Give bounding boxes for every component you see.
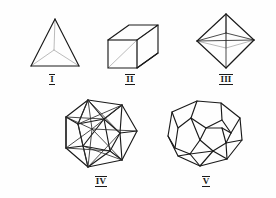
dodecahedron-edge-left-join: [168, 136, 175, 148]
figure-cube: [108, 25, 158, 68]
figure-canvas: I II III IV V: [0, 0, 276, 198]
figure-octahedron: [197, 14, 254, 68]
tetrahedron-hidden-edge-apex-rear: [54, 19, 55, 50]
dodecahedron-edge-lower-right: [226, 143, 227, 159]
icosahedron-edge-m2: [83, 119, 104, 146]
platonic-solids-illustration: [0, 0, 276, 198]
figure-tetrahedron: [31, 19, 79, 66]
figure-label-icosahedron: IV: [91, 176, 111, 187]
figure-label-tetrahedron-text: I: [49, 74, 55, 85]
figure-label-octahedron-text: III: [219, 74, 232, 85]
figure-label-cube-text: II: [125, 74, 134, 85]
dodecahedron-edge-bottom-c: [213, 151, 227, 159]
figure-label-tetrahedron: I: [42, 74, 62, 85]
icosahedron-far-edge-10: [78, 124, 88, 167]
figure-icosahedron: [66, 100, 137, 167]
figure-label-dodecahedron: V: [196, 176, 216, 187]
icosahedron-far-edge-6: [66, 117, 104, 119]
cube-top-face: [108, 25, 158, 40]
dodecahedron-face-upper-right: [222, 118, 240, 133]
icosahedron-edge-l5: [120, 133, 122, 160]
dodecahedron-face-center-a: [200, 128, 222, 140]
dodecahedron-edge-right-b: [226, 133, 231, 143]
octahedron-edge-bottom-left: [197, 41, 226, 68]
figure-label-octahedron: III: [216, 74, 236, 85]
dodecahedron-edge-bottom-left-join: [178, 154, 190, 156]
figure-label-dodecahedron-text: V: [202, 176, 211, 187]
figure-label-icosahedron-text: IV: [95, 176, 107, 187]
icosahedron-edge-u6: [120, 105, 122, 133]
figure-label-cube: II: [120, 74, 140, 85]
dodecahedron-face-left: [175, 118, 200, 154]
dodecahedron-face-upper-left: [172, 112, 191, 128]
dodecahedron-face-top: [191, 101, 222, 128]
cube-hidden-diagonal: [108, 40, 137, 68]
dodecahedron-edge-bottom-b: [190, 151, 213, 154]
cube-right-face: [137, 25, 158, 68]
tetrahedron-edge-apex-right: [55, 19, 79, 66]
octahedron-equator-rear: [197, 40, 254, 41]
cube-edge-bottom-right: [137, 53, 158, 68]
tetrahedron-edge-apex-left: [31, 19, 55, 66]
figure-dodecahedron: [168, 101, 242, 166]
